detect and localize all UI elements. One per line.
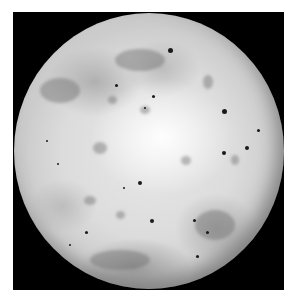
surface-patch [93,142,107,154]
volcanic-spot [123,187,125,189]
surface-patch [40,78,80,103]
surface-patch [195,210,235,240]
volcanic-spot [138,181,142,185]
surface-patch [116,211,125,219]
surface-patch [231,155,239,165]
io-moon-disc [14,13,284,289]
volcanic-spot [115,84,118,87]
volcanic-spot [69,244,72,247]
volcanic-spot [245,146,249,150]
surface-patch [203,75,213,89]
surface-patch [90,250,150,270]
volcanic-spot [193,219,196,222]
surface-patch [108,96,117,104]
surface-patch [181,156,191,165]
volcanic-spot [150,219,154,223]
volcanic-spot [257,129,260,132]
volcanic-spot [168,48,173,53]
volcanic-spot [222,109,227,114]
surface-patch [84,196,96,205]
surface-patch [115,49,165,71]
volcanic-spot [152,95,155,98]
volcanic-spot [46,140,48,142]
volcanic-spot [222,151,226,155]
volcanic-spot [57,163,59,165]
volcanic-spot [196,255,199,258]
volcanic-spot [85,231,88,234]
image-frame [13,12,284,290]
volcanic-spot [206,231,209,234]
